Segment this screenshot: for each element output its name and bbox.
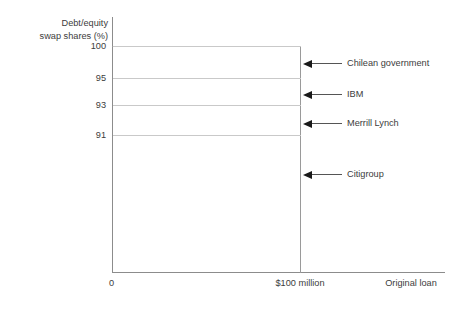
callout-leader-chilean-government (312, 63, 342, 64)
callout-label-ibm: IBM (347, 89, 363, 100)
callout-arrow-icon-citigroup (303, 171, 312, 179)
y-axis-title-line-1: Debt/equity (0, 17, 108, 30)
y-tick-label-91: 91 (64, 130, 106, 140)
callout-label-citigroup: Citigroup (347, 169, 384, 180)
callout-arrow-icon-chilean-government (303, 60, 312, 68)
x-tick-label-100-million: $100 million (240, 278, 360, 289)
y-axis-line (112, 17, 113, 273)
y-axis-title: Debt/equity swap shares (%) (0, 17, 108, 42)
callout-arrow-icon-ibm (303, 91, 312, 99)
x-axis-title: Original loan (372, 278, 450, 289)
callout-leader-ibm (312, 94, 342, 95)
gridline-100 (113, 46, 301, 47)
gridline-93 (113, 105, 301, 106)
y-tick-label-95: 95 (64, 73, 106, 83)
callout-leader-citigroup (312, 174, 342, 175)
y-tick-label-100: 100 (64, 41, 106, 51)
callout-arrow-icon-merrill-lynch (303, 120, 312, 128)
bar-right-edge (300, 46, 301, 273)
x-axis-line (112, 272, 445, 273)
y-tick-label-93: 93 (64, 100, 106, 110)
callout-label-merrill-lynch: Merrill Lynch (347, 118, 399, 129)
gridline-91 (113, 135, 301, 136)
callout-leader-merrill-lynch (312, 123, 342, 124)
gridline-95 (113, 78, 301, 79)
chart-canvas: Debt/equity swap shares (%) 100 95 93 91… (0, 0, 461, 315)
x-tick-label-origin: 0 (109, 278, 114, 289)
callout-label-chilean-government: Chilean government (347, 58, 429, 69)
